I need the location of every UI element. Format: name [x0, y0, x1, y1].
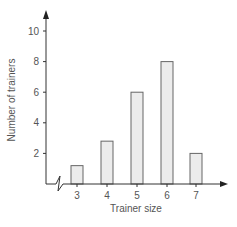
- bar-4: [101, 141, 113, 184]
- y-tick-label: 8: [33, 56, 39, 67]
- bar-7: [190, 153, 202, 184]
- x-ticks-group: 34567: [74, 184, 199, 201]
- y-tick-label: 4: [33, 117, 39, 128]
- y-tick-label: 6: [33, 87, 39, 98]
- x-tick-label: 4: [104, 190, 110, 201]
- x-tick-label: 7: [193, 190, 199, 201]
- y-axis-arrow-icon: [43, 10, 49, 19]
- y-tick-label: 2: [33, 148, 39, 159]
- bar-6: [161, 62, 173, 184]
- x-axis-arrow-icon: [220, 181, 228, 187]
- bars-group: [71, 62, 202, 184]
- y-tick-label: 10: [28, 26, 40, 37]
- x-tick-label: 3: [74, 190, 80, 201]
- x-tick-label: 5: [134, 190, 140, 201]
- bar-chart: 246810 34567 Trainer size Number of trai…: [0, 0, 237, 227]
- y-ticks-group: 246810: [28, 26, 46, 159]
- bar-5: [131, 92, 143, 184]
- bar-3: [71, 166, 83, 184]
- y-axis-title: Number of trainers: [6, 59, 17, 142]
- x-tick-label: 6: [164, 190, 170, 201]
- x-axis-title: Trainer size: [110, 203, 162, 214]
